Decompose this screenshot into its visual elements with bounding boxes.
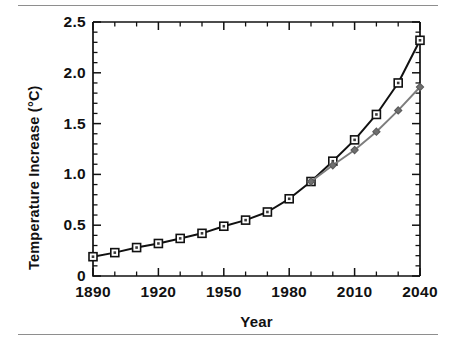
data-series-group (89, 36, 424, 260)
y-tick-label: 2.5 (40, 13, 86, 31)
data-point-marker-core (353, 139, 356, 142)
x-tick-label: 1950 (194, 283, 254, 301)
y-tick-label: 2.0 (40, 64, 86, 82)
y-tick-label: 1.5 (40, 115, 86, 133)
axes-group (93, 22, 420, 276)
data-point-marker-core (201, 232, 204, 235)
chart-figure: Temperature Increase (°C) Year 00.51.01.… (0, 0, 455, 353)
data-point-marker-core (92, 255, 95, 258)
x-tick-label: 1890 (63, 283, 123, 301)
x-tick-label: 2010 (325, 283, 385, 301)
data-point-marker-core (223, 225, 226, 228)
data-point-marker-core (179, 237, 182, 240)
data-point-marker-core (157, 242, 160, 245)
data-point-marker-core (135, 246, 138, 249)
x-axis-label: Year (93, 313, 420, 330)
data-point-marker-core (288, 197, 291, 200)
series-line-primary-scenario (93, 40, 420, 256)
x-tick-label: 1920 (128, 283, 188, 301)
y-tick-label: 1.0 (40, 165, 86, 183)
data-point-marker-core (375, 113, 378, 116)
axis-spines (93, 22, 420, 276)
data-point-marker-core (266, 211, 269, 214)
data-point-marker-core (114, 251, 117, 254)
data-point-marker-core (244, 219, 247, 222)
y-tick-label: 0.5 (40, 216, 86, 234)
x-tick-label: 1980 (259, 283, 319, 301)
data-point-marker-core (397, 82, 400, 85)
x-tick-label: 2040 (390, 283, 450, 301)
data-point-marker-core (419, 39, 422, 42)
